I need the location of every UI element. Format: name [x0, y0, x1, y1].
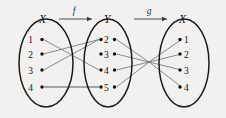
- g-line-2-in: [117, 40, 150, 63]
- middle-node-dot-in-4: [99, 68, 102, 71]
- left-node-dot-4: [40, 85, 43, 88]
- set-right-x: X 1 2 3 4: [159, 13, 209, 107]
- middle-oval-outline: [84, 19, 132, 107]
- arrow-g-head: [162, 17, 167, 21]
- right-set-label: X: [178, 13, 187, 25]
- middle-node-dot-in-5: [99, 85, 102, 88]
- left-set-label: X: [38, 13, 47, 25]
- left-node-dot-1: [40, 38, 43, 41]
- right-node-dot-2: [178, 52, 181, 55]
- middle-element-label-2: 2: [104, 35, 109, 45]
- left-element-label-1: 1: [28, 35, 33, 45]
- g-line-4-out: [149, 40, 182, 63]
- right-node-dot-3: [178, 68, 181, 71]
- right-element-label-1: 1: [184, 35, 189, 45]
- function-composition-diagram: f g X 1: [0, 0, 226, 118]
- arrow-g-label: g: [147, 6, 152, 16]
- middle-node-dot-in-2: [99, 38, 102, 41]
- arrow-f: f: [59, 6, 92, 21]
- set-middle-y: Y 2 3 4 5: [84, 13, 132, 107]
- middle-node-dot-out-2: [113, 38, 116, 41]
- right-element-label-3: 3: [184, 66, 189, 76]
- right-node-dot-1: [178, 38, 181, 41]
- middle-element-label-3: 3: [104, 50, 109, 60]
- g-mapping-lines: [117, 40, 182, 88]
- middle-node-dot-out-4: [113, 68, 116, 71]
- right-element-label-4: 4: [184, 83, 189, 93]
- set-left-x: X 1 2 3 4: [19, 13, 73, 107]
- arrow-f-head: [87, 17, 92, 21]
- right-element-label-2: 2: [184, 50, 189, 60]
- middle-node-dot-out-3: [113, 52, 116, 55]
- right-oval-outline: [159, 19, 209, 107]
- g-line-3-out: [149, 54, 182, 62]
- left-oval-outline: [19, 19, 73, 107]
- left-element-label-4: 4: [28, 83, 33, 93]
- arrow-f-label: f: [73, 6, 77, 16]
- left-element-label-2: 2: [28, 50, 33, 60]
- left-node-dot-3: [40, 68, 43, 71]
- left-element-label-3: 3: [28, 66, 33, 76]
- right-node-dot-4: [178, 85, 181, 88]
- g-line-3-in: [117, 54, 150, 62]
- middle-node-dot-out-5: [113, 85, 116, 88]
- middle-element-label-4: 4: [104, 66, 109, 76]
- middle-element-label-5: 5: [104, 83, 109, 93]
- middle-node-dot-in-3: [99, 52, 102, 55]
- arrow-g: g: [134, 6, 167, 21]
- left-node-dot-2: [40, 52, 43, 55]
